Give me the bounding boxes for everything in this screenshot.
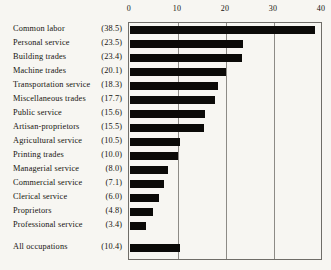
x-tick-label-40: 40 bbox=[317, 4, 326, 13]
category-value: (15.6) bbox=[101, 106, 122, 120]
category-value: (3.4) bbox=[106, 218, 122, 232]
category-name: Artisan-proprietors bbox=[13, 120, 79, 134]
category-name: Miscellaneous trades bbox=[13, 92, 86, 106]
x-tick-label-10: 10 bbox=[173, 4, 182, 13]
plot-area bbox=[128, 22, 322, 260]
horizontal-bar-chart: 010203040 Common labor(38.5)Personal ser… bbox=[0, 0, 331, 270]
bar bbox=[130, 110, 205, 118]
bar bbox=[130, 82, 218, 90]
category-name: Personal service bbox=[13, 36, 70, 50]
chart-row-label: Managerial service(8.0) bbox=[13, 162, 128, 176]
x-tick-label-30: 30 bbox=[269, 4, 278, 13]
category-name: Commercial service bbox=[13, 176, 82, 190]
category-value: (4.8) bbox=[106, 204, 122, 218]
category-value: (38.5) bbox=[101, 22, 122, 36]
chart-row-label: Miscellaneous trades(17.7) bbox=[13, 92, 128, 106]
chart-row-label: Artisan-proprietors(15.5) bbox=[13, 120, 128, 134]
category-name: Agricultural service bbox=[13, 134, 82, 148]
category-value: (10.4) bbox=[101, 240, 122, 254]
bar bbox=[130, 152, 178, 160]
bar bbox=[130, 244, 180, 252]
chart-row-label: Transportation service(18.3) bbox=[13, 78, 128, 92]
bar bbox=[130, 124, 204, 132]
category-value: (10.5) bbox=[101, 134, 122, 148]
chart-row-label: All occupations(10.4) bbox=[13, 240, 128, 254]
chart-row-label: Proprietors(4.8) bbox=[13, 204, 128, 218]
bar bbox=[130, 208, 153, 216]
category-value: (18.3) bbox=[101, 78, 122, 92]
chart-row-label: Public service(15.6) bbox=[13, 106, 128, 120]
category-name: Clerical service bbox=[13, 190, 67, 204]
chart-row-label: Building trades(23.4) bbox=[13, 50, 128, 64]
category-name: Building trades bbox=[13, 50, 66, 64]
category-value: (23.5) bbox=[101, 36, 122, 50]
chart-row-label: Machine trades(20.1) bbox=[13, 64, 128, 78]
chart-row-label: Common labor(38.5) bbox=[13, 22, 128, 36]
category-name: Common labor bbox=[13, 22, 65, 36]
chart-row-label: Clerical service(6.0) bbox=[13, 190, 128, 204]
bar bbox=[130, 138, 180, 146]
category-value: (7.1) bbox=[106, 176, 122, 190]
chart-row-label: Professional service(3.4) bbox=[13, 218, 128, 232]
bar bbox=[130, 222, 146, 230]
category-name: Proprietors bbox=[13, 204, 52, 218]
category-value: (17.7) bbox=[101, 92, 122, 106]
category-name: Machine trades bbox=[13, 64, 66, 78]
category-value: (10.0) bbox=[101, 148, 122, 162]
chart-row-label: Agricultural service(10.5) bbox=[13, 134, 128, 148]
x-tick-label-20: 20 bbox=[221, 4, 230, 13]
chart-row-label: Personal service(23.5) bbox=[13, 36, 128, 50]
chart-row-label: Printing trades(10.0) bbox=[13, 148, 128, 162]
category-name: Managerial service bbox=[13, 162, 79, 176]
category-value: (15.5) bbox=[101, 120, 122, 134]
category-name: All occupations bbox=[13, 240, 68, 254]
category-label-column: Common labor(38.5)Personal service(23.5)… bbox=[0, 0, 128, 270]
gridline-30 bbox=[274, 23, 275, 259]
bar bbox=[130, 68, 226, 76]
bar bbox=[130, 96, 215, 104]
category-value: (6.0) bbox=[106, 190, 122, 204]
bar bbox=[130, 54, 242, 62]
category-value: (8.0) bbox=[106, 162, 122, 176]
chart-row-label: Commercial service(7.1) bbox=[13, 176, 128, 190]
bar bbox=[130, 180, 164, 188]
bar bbox=[130, 166, 168, 174]
category-name: Printing trades bbox=[13, 148, 64, 162]
category-value: (20.1) bbox=[101, 64, 122, 78]
x-axis-tick-labels: 010203040 bbox=[128, 4, 322, 20]
category-name: Transportation service bbox=[13, 78, 90, 92]
bar bbox=[130, 194, 159, 202]
category-name: Professional service bbox=[13, 218, 83, 232]
category-value: (23.4) bbox=[101, 50, 122, 64]
bar bbox=[130, 26, 315, 34]
bar bbox=[130, 40, 243, 48]
category-name: Public service bbox=[13, 106, 62, 120]
